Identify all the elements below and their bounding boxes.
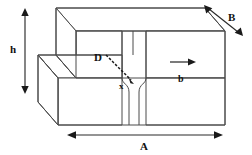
dimension-h <box>21 8 28 94</box>
label-x: x <box>119 82 124 91</box>
dimension-A-arrowhead-right <box>214 131 223 139</box>
label-A: A <box>140 141 148 152</box>
front-face-lower-right <box>146 78 225 125</box>
label-h: h <box>10 44 16 55</box>
label-B: B <box>228 12 235 23</box>
dimension-A-arrowhead-left <box>67 131 76 139</box>
front-face-lower-left <box>58 78 122 125</box>
dimension-A <box>67 131 223 139</box>
front-face-upper-right <box>146 31 225 78</box>
block-body <box>38 8 225 125</box>
block-diagram-svg <box>0 0 252 155</box>
dimension-B-arrowhead-lower <box>235 28 243 36</box>
dimension-h-arrowhead-top <box>21 8 28 16</box>
top-face-upper-slab <box>56 8 225 31</box>
label-b: b <box>178 74 184 84</box>
figure-container: h B D x b A <box>0 0 252 155</box>
leader-D-arrowhead <box>129 78 134 84</box>
label-D: D <box>94 52 102 63</box>
dimension-h-arrowhead-bottom <box>21 86 28 94</box>
